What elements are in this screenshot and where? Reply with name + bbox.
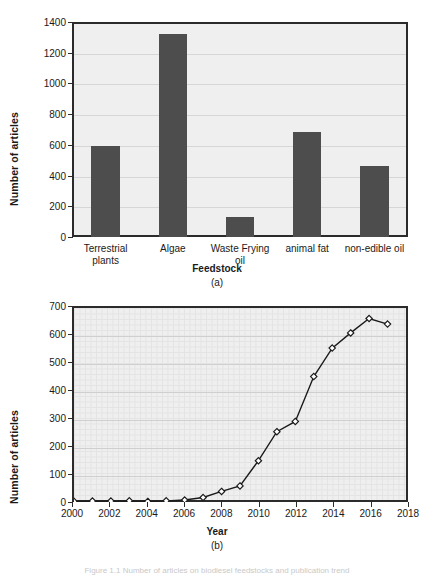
line-chart-x-tick-mark	[109, 502, 110, 507]
line-data-point-marker	[292, 418, 298, 424]
bar-chart-y-tick-label: 1200	[28, 47, 66, 58]
line-data-point-marker	[163, 498, 169, 502]
bar-category-label-line: animal fat	[274, 243, 341, 255]
bar-chart-y-tick-label: 400	[28, 170, 66, 181]
line-chart-x-tick-mark	[221, 502, 222, 507]
bar-chart-gridline	[74, 146, 406, 147]
bar	[226, 217, 254, 237]
line-chart-y-tick-label: 0	[28, 497, 66, 508]
line-series-path	[74, 319, 388, 502]
line-chart-x-tick-label: 2010	[248, 508, 270, 519]
line-chart-x-tick-mark	[371, 502, 372, 507]
line-chart-plot-area	[72, 306, 408, 502]
line-chart-x-tick-mark	[333, 502, 334, 507]
bar-chart-panel: Number of articles 020040060080010001200…	[0, 0, 434, 290]
line-chart-x-tick-mark	[408, 502, 409, 507]
line-chart-y-tick-mark	[68, 390, 73, 391]
line-data-point-marker	[384, 321, 390, 327]
bar-chart-y-axis-label: Number of articles	[8, 56, 20, 206]
line-chart-x-tick-label: 2008	[210, 508, 232, 519]
bar-chart-y-tick-mark	[68, 206, 73, 207]
line-chart-y-tick-mark	[68, 306, 73, 307]
line-data-point-marker	[181, 497, 187, 502]
line-chart-x-tick-label: 2018	[397, 508, 419, 519]
line-chart-y-tick-mark	[68, 418, 73, 419]
bar-chart-y-tick-label: 0	[28, 232, 66, 243]
line-data-point-marker	[218, 488, 224, 494]
line-data-point-marker	[126, 498, 132, 502]
line-chart-y-tick-label: 600	[28, 329, 66, 340]
line-chart-series	[74, 308, 406, 502]
line-chart-y-tick-label: 700	[28, 301, 66, 312]
bar-category-label: Algae	[139, 243, 206, 255]
line-chart-x-tick-mark	[184, 502, 185, 507]
line-chart-x-tick-label: 2002	[98, 508, 120, 519]
line-chart-y-tick-label: 100	[28, 469, 66, 480]
line-chart-x-tick-label: 2006	[173, 508, 195, 519]
line-chart-x-tick-mark	[147, 502, 148, 507]
bar-chart-gridline	[74, 207, 406, 208]
line-chart-x-tick-label: 2012	[285, 508, 307, 519]
line-chart-x-tick-label: 2016	[360, 508, 382, 519]
bar	[91, 146, 119, 237]
line-chart-x-tick-label: 2000	[61, 508, 83, 519]
bar-chart-y-tick-mark	[68, 237, 73, 238]
bar-chart-gridline	[74, 177, 406, 178]
bar-category-label-line: Terrestrial	[72, 243, 139, 255]
bar-category-label: non-edible oil	[341, 243, 408, 255]
line-chart-panel: Number of articles 010020030040050060070…	[0, 294, 434, 559]
line-chart-x-tick-label: 2004	[136, 508, 158, 519]
line-chart-y-tick-mark	[68, 362, 73, 363]
bar-chart-y-tick-label: 200	[28, 201, 66, 212]
bar-chart-gridline	[74, 54, 406, 55]
bar	[159, 34, 187, 237]
bar-category-label-line: Waste Frying	[206, 243, 273, 255]
line-chart-x-tick-mark	[259, 502, 260, 507]
panel-b-caption: (b)	[0, 540, 434, 551]
bar-chart-x-axis-label: Feedstock	[0, 263, 434, 274]
line-chart-x-tick-label: 2014	[322, 508, 344, 519]
line-chart-y-axis-label: Number of articles	[8, 354, 20, 504]
panel-a-caption: (a)	[0, 277, 434, 288]
line-chart-x-tick-mark	[72, 502, 73, 507]
figure-bottom-caption: Figure 1.1 Number of articles on biodies…	[0, 566, 434, 575]
bar-chart-y-tick-label: 1400	[28, 17, 66, 28]
bar-category-label-line: non-edible oil	[341, 243, 408, 255]
line-chart-y-tick-mark	[68, 334, 73, 335]
bar-chart-y-tick-label: 800	[28, 109, 66, 120]
line-data-point-marker	[89, 498, 95, 502]
line-chart-y-tick-mark	[68, 474, 73, 475]
line-chart-y-tick-mark	[68, 446, 73, 447]
bar-chart-y-tick-mark	[68, 145, 73, 146]
bar-category-label-line: Algae	[139, 243, 206, 255]
bar	[293, 132, 321, 237]
line-chart-x-tick-mark	[296, 502, 297, 507]
line-chart-x-axis-label: Year	[0, 526, 434, 537]
bar-chart-y-tick-mark	[68, 114, 73, 115]
line-chart-y-tick-label: 300	[28, 413, 66, 424]
bar-chart-y-tick-label: 1000	[28, 78, 66, 89]
bar-chart-gridline	[74, 84, 406, 85]
bar-chart-gridline	[74, 115, 406, 116]
line-data-point-marker	[200, 494, 206, 500]
bar-chart-y-tick-mark	[68, 53, 73, 54]
bar-chart-y-tick-mark	[68, 83, 73, 84]
bar-category-label: animal fat	[274, 243, 341, 255]
line-chart-y-tick-label: 400	[28, 385, 66, 396]
bar-chart-y-tick-label: 600	[28, 139, 66, 150]
line-chart-y-tick-label: 500	[28, 357, 66, 368]
bar	[360, 166, 388, 237]
line-data-point-marker	[145, 498, 151, 501]
bar-chart-plot-area	[72, 22, 408, 237]
bar-chart-y-tick-mark	[68, 22, 73, 23]
line-data-point-marker	[74, 498, 77, 501]
line-chart-y-tick-label: 200	[28, 441, 66, 452]
bar-chart-y-tick-mark	[68, 176, 73, 177]
